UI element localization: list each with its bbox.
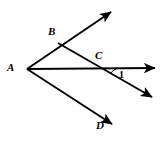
geometry-canvas	[0, 0, 164, 141]
line-b-through-c	[58, 43, 152, 97]
point-label-c: C	[95, 50, 102, 61]
point-label-b: B	[48, 26, 55, 37]
point-label-d: D	[96, 120, 104, 131]
geometry-figure: A B C D 1	[0, 0, 164, 141]
ray-a-to-c	[27, 68, 155, 69]
point-label-a: A	[7, 62, 14, 73]
ray-a-to-d	[27, 69, 112, 124]
angle-label-1: 1	[119, 70, 124, 80]
